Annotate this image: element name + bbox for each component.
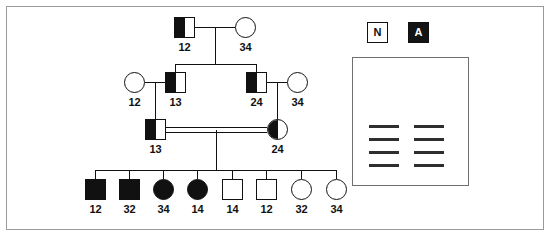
individual-IV-5 xyxy=(222,179,243,200)
haplotype-label-II-2: 13 xyxy=(155,96,196,108)
consanguineous-mating-line-upper xyxy=(166,127,267,128)
haplotype-label-II-1: 12 xyxy=(114,96,155,108)
legend-affected-label: A xyxy=(415,27,423,38)
individual-IV-4 xyxy=(187,179,208,200)
sibship-bar-gen4 xyxy=(95,170,336,171)
gel-band-left-2 xyxy=(369,138,399,141)
sib-drop-II-3 xyxy=(256,64,257,72)
haplotype-label-III-1: 13 xyxy=(135,143,176,155)
gel-band-right-3 xyxy=(414,151,444,154)
sibship-bar-gen2 xyxy=(175,64,256,65)
gel-band-right-2 xyxy=(414,138,444,141)
individual-IV-3 xyxy=(153,179,174,200)
individual-IV-7 xyxy=(291,179,312,200)
haplotype-label-II-3: 24 xyxy=(236,96,277,108)
individual-II-2 xyxy=(165,72,186,93)
individual-IV-6 xyxy=(256,179,277,200)
sib-drop-II-2 xyxy=(175,64,176,72)
individual-II-1 xyxy=(124,72,145,93)
individual-I-2 xyxy=(235,17,256,38)
individual-I-1 xyxy=(174,17,195,38)
descent-line-gen1 xyxy=(215,27,216,64)
pedigree-figure: 12 34 12 13 24 34 13 24 xyxy=(0,0,550,236)
legend-normal-box: N xyxy=(367,22,388,43)
gel-band-left-1 xyxy=(369,125,399,128)
sib-drop-IV-6 xyxy=(266,170,267,179)
individual-II-4 xyxy=(287,72,308,93)
legend-affected-box: A xyxy=(408,22,429,43)
gel-band-right-4 xyxy=(414,164,444,167)
individual-IV-1 xyxy=(85,179,106,200)
half-fill-left xyxy=(166,73,176,92)
descent-line-gen3 xyxy=(216,130,217,170)
half-fill-left xyxy=(175,18,185,37)
sib-drop-IV-1 xyxy=(95,170,96,179)
individual-II-3 xyxy=(246,72,267,93)
gel-band-left-4 xyxy=(369,164,399,167)
half-fill-left xyxy=(247,73,257,92)
half-fill-left xyxy=(268,120,278,139)
sib-drop-IV-3 xyxy=(163,170,164,179)
haplotype-label-III-2: 24 xyxy=(257,143,298,155)
gel-panel xyxy=(352,57,469,186)
individual-III-2 xyxy=(267,119,288,140)
individual-IV-8 xyxy=(326,179,347,200)
haplotype-label-I-2: 34 xyxy=(225,41,266,53)
individual-III-1 xyxy=(145,119,166,140)
sib-drop-IV-2 xyxy=(129,170,130,179)
gel-band-left-3 xyxy=(369,151,399,154)
gel-band-right-1 xyxy=(414,125,444,128)
half-fill-left xyxy=(146,120,156,139)
haplotype-label-II-4: 34 xyxy=(277,96,318,108)
sib-drop-IV-5 xyxy=(232,170,233,179)
individual-IV-2 xyxy=(119,179,140,200)
sib-drop-IV-8 xyxy=(336,170,337,179)
sib-drop-IV-4 xyxy=(197,170,198,179)
sib-drop-IV-7 xyxy=(301,170,302,179)
haplotype-label-I-1: 12 xyxy=(164,41,205,53)
haplotype-label-IV-8: 34 xyxy=(316,203,357,215)
legend-normal-label: N xyxy=(374,27,382,38)
